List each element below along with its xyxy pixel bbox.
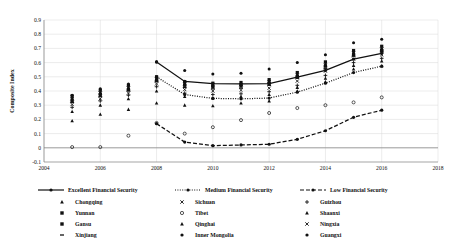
chart-container: -0.100.10.20.30.40.50.60.70.80.9 2004200… bbox=[0, 0, 455, 250]
trend-marker bbox=[296, 76, 299, 79]
trend-marker bbox=[380, 65, 383, 68]
trend-marker bbox=[380, 52, 383, 55]
trend-marker bbox=[155, 60, 158, 63]
y-tick-label: 0.8 bbox=[34, 31, 41, 37]
trend-marker bbox=[155, 75, 158, 78]
x-tick-label: 2018 bbox=[432, 165, 443, 171]
x-tick-label: 2008 bbox=[151, 165, 162, 171]
y-tick-label: 0.3 bbox=[34, 102, 41, 108]
trend-marker bbox=[239, 82, 242, 85]
trend-marker bbox=[155, 122, 158, 125]
legend-series-label: Low Financial Security bbox=[330, 187, 388, 193]
trend-marker bbox=[211, 97, 214, 100]
scatter-point bbox=[183, 69, 186, 72]
legend-item-label: Shaanxi bbox=[320, 210, 340, 216]
scatter-point bbox=[239, 72, 242, 75]
legend-marker bbox=[180, 233, 183, 236]
scatter-point bbox=[183, 83, 186, 86]
y-tick-label: 0.1 bbox=[34, 131, 41, 137]
trend-marker bbox=[183, 80, 186, 83]
y-tick-label: 0.2 bbox=[34, 116, 41, 122]
y-axis-title: Composite Index bbox=[9, 69, 15, 113]
trend-marker bbox=[239, 97, 242, 100]
trend-marker bbox=[239, 143, 242, 146]
trend-marker bbox=[211, 144, 214, 147]
legend-item-label: Tibet bbox=[195, 210, 208, 216]
trend-marker bbox=[183, 93, 186, 96]
legend-marker bbox=[186, 188, 189, 191]
legend-item-label: Sichuan bbox=[195, 199, 216, 205]
y-tick-label: 0.7 bbox=[34, 45, 41, 51]
trend-marker bbox=[211, 82, 214, 85]
trend-marker bbox=[296, 138, 299, 141]
y-tick-label: 0.5 bbox=[34, 74, 41, 80]
scatter-point bbox=[380, 38, 383, 41]
scatter-point bbox=[324, 64, 327, 67]
legend-marker bbox=[311, 188, 314, 191]
trend-marker bbox=[324, 82, 327, 85]
chart-background bbox=[0, 0, 455, 250]
trend-marker bbox=[268, 96, 271, 99]
legend-marker bbox=[305, 233, 308, 236]
scatter-point bbox=[71, 94, 74, 97]
trend-marker bbox=[352, 71, 355, 74]
x-tick-label: 2004 bbox=[38, 165, 49, 171]
trend-marker bbox=[324, 69, 327, 72]
legend-series-label: Excellent Financial Security bbox=[68, 187, 138, 193]
y-tick-label: 0 bbox=[38, 145, 41, 151]
trend-marker bbox=[268, 143, 271, 146]
legend-item-label: Chongqing bbox=[75, 199, 102, 205]
y-tick-label: 0.4 bbox=[34, 88, 41, 94]
y-axis-title-text: Composite Index bbox=[9, 69, 15, 113]
legend-item-label: Ningxia bbox=[320, 221, 339, 227]
scatter-point bbox=[296, 61, 299, 64]
legend-item-label: Gansu bbox=[75, 221, 92, 227]
trend-marker bbox=[324, 129, 327, 132]
legend-item-label: Inner Mongolia bbox=[195, 232, 234, 238]
legend-item-label: Qinghai bbox=[195, 221, 215, 227]
legend-item-label: Xinjiang bbox=[75, 232, 97, 238]
scatter-point bbox=[211, 72, 214, 75]
trend-marker bbox=[352, 57, 355, 60]
scatter-point bbox=[127, 87, 130, 90]
legend-series-label: Medium Financial Security bbox=[205, 187, 273, 193]
x-tick-label: 2006 bbox=[95, 165, 106, 171]
scatter-point bbox=[268, 67, 271, 70]
scatter-point bbox=[352, 41, 355, 44]
scatter-point bbox=[380, 48, 383, 51]
scatter-point bbox=[324, 53, 327, 56]
legend-item-label: Guangxi bbox=[320, 232, 342, 238]
x-tick-label: 2014 bbox=[320, 165, 331, 171]
scatter-point bbox=[127, 82, 130, 85]
trend-marker bbox=[380, 109, 383, 112]
trend-marker bbox=[268, 82, 271, 85]
trend-marker bbox=[183, 141, 186, 144]
scatter-point bbox=[352, 53, 355, 56]
scatter-point bbox=[99, 92, 102, 95]
scatter-point bbox=[99, 87, 102, 90]
legend-marker bbox=[60, 211, 63, 214]
legend-item-label: Yunnan bbox=[75, 210, 95, 216]
x-tick-label: 2012 bbox=[264, 165, 275, 171]
x-tick-label: 2016 bbox=[376, 165, 387, 171]
scatter-point bbox=[71, 98, 74, 101]
legend-item-label: Guizhou bbox=[320, 199, 342, 205]
scatter-point bbox=[155, 78, 158, 81]
legend-marker bbox=[60, 222, 63, 225]
trend-marker bbox=[352, 116, 355, 119]
y-tick-label: 0.6 bbox=[34, 60, 41, 66]
x-tick-label: 2010 bbox=[207, 165, 218, 171]
trend-marker bbox=[296, 91, 299, 94]
legend-marker bbox=[49, 188, 52, 191]
composite-index-chart: -0.100.10.20.30.40.50.60.70.80.9 2004200… bbox=[0, 0, 455, 250]
y-tick-label: 0.9 bbox=[34, 17, 41, 23]
